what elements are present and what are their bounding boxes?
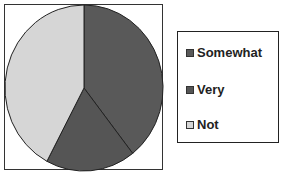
legend-label: Not — [197, 117, 219, 132]
legend-item-not: Not — [186, 117, 219, 132]
legend-label: Somewhat — [197, 45, 262, 60]
legend-swatch-not — [186, 121, 194, 129]
legend-item-somewhat: Somewhat — [186, 45, 262, 60]
legend-swatch-very — [186, 86, 194, 94]
legend-label: Very — [197, 82, 224, 97]
legend-item-very: Very — [186, 82, 224, 97]
legend: Somewhat Very Not — [177, 31, 279, 143]
legend-swatch-somewhat — [186, 49, 194, 57]
